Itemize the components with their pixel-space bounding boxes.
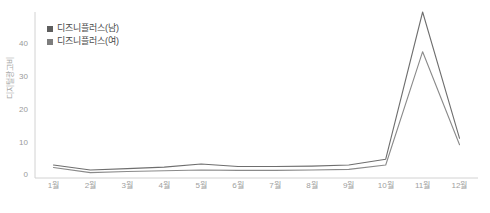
x-tick-label: 5월 bbox=[184, 181, 218, 190]
legend-label: 디즈니플러스(남) bbox=[57, 23, 119, 34]
y-tick-label: 30 bbox=[6, 72, 28, 81]
legend-item-male[interactable]: 디즈니플러스(남) bbox=[47, 23, 119, 34]
legend-item-female[interactable]: 디즈니플러스(여) bbox=[47, 36, 119, 47]
x-tick-label: 12월 bbox=[443, 181, 477, 190]
x-tick-label: 7월 bbox=[258, 181, 292, 190]
y-tick-label: 0 bbox=[6, 170, 28, 179]
line-chart: 디지털광고비 40 30 20 10 0 1월2월3월4월5월6월7월8월9월1… bbox=[0, 0, 490, 213]
x-tick-label: 1월 bbox=[36, 181, 70, 190]
chart-legend: 디즈니플러스(남) 디즈니플러스(여) bbox=[47, 23, 119, 47]
series-line-female bbox=[53, 52, 459, 173]
footer-strip bbox=[0, 196, 490, 213]
x-tick-label: 4월 bbox=[147, 181, 181, 190]
x-tick-label: 2월 bbox=[73, 181, 107, 190]
legend-swatch-icon bbox=[47, 39, 53, 45]
legend-swatch-icon bbox=[47, 26, 53, 32]
x-tick-label: 9월 bbox=[332, 181, 366, 190]
x-tick-label: 3월 bbox=[110, 181, 144, 190]
legend-label: 디즈니플러스(여) bbox=[57, 36, 119, 47]
y-tick-label: 40 bbox=[6, 39, 28, 48]
x-tick-label: 11월 bbox=[406, 181, 440, 190]
x-tick-label: 6월 bbox=[221, 181, 255, 190]
y-tick-label: 10 bbox=[6, 138, 28, 147]
x-tick-label: 8월 bbox=[295, 181, 329, 190]
x-tick-label: 10월 bbox=[369, 181, 403, 190]
y-tick-label: 20 bbox=[6, 105, 28, 114]
